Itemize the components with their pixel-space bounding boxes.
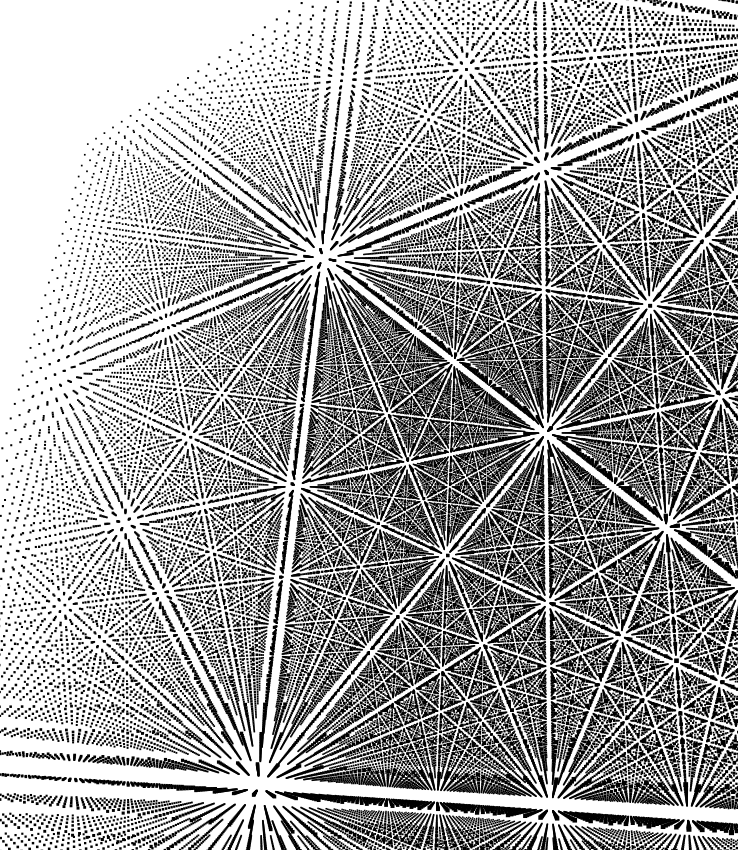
lattice-image bbox=[0, 0, 738, 850]
point-lattice-canvas bbox=[0, 0, 738, 850]
